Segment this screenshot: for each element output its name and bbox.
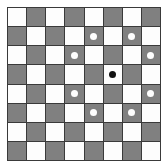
board-square-light-r8-c4[interactable] <box>65 142 83 160</box>
board-square-dark-r7-c8[interactable] <box>142 123 160 141</box>
board-square-light-r7-c5[interactable] <box>85 123 103 141</box>
board-square-light-r1-c3[interactable] <box>46 8 64 26</box>
board-square-light-r1-c1[interactable] <box>8 8 26 26</box>
board-square-dark-r5-c8[interactable] <box>142 85 160 103</box>
board-square-light-r6-c6[interactable] <box>104 104 122 122</box>
board-square-light-r3-c1[interactable] <box>8 46 26 64</box>
board-square-dark-r2-c7[interactable] <box>123 27 141 45</box>
board-square-dark-r4-c1[interactable] <box>8 65 26 83</box>
board-square-dark-r3-c8[interactable] <box>142 46 160 64</box>
board-square-dark-r5-c4[interactable] <box>65 85 83 103</box>
board-square-dark-r6-c1[interactable] <box>8 104 26 122</box>
board-square-dark-r7-c6[interactable] <box>104 123 122 141</box>
board-square-dark-r4-c5[interactable] <box>85 65 103 83</box>
white-dot-icon <box>147 90 154 97</box>
white-dot-icon <box>147 52 154 59</box>
board-square-light-r6-c8[interactable] <box>142 104 160 122</box>
board-square-dark-r4-c3[interactable] <box>46 65 64 83</box>
board-square-light-r3-c5[interactable] <box>85 46 103 64</box>
board-square-light-r1-c7[interactable] <box>123 8 141 26</box>
white-dot-icon <box>71 90 78 97</box>
board-square-light-r5-c7[interactable] <box>123 85 141 103</box>
board-square-dark-r8-c3[interactable] <box>46 142 64 160</box>
board-square-dark-r6-c5[interactable] <box>85 104 103 122</box>
board-square-light-r4-c6[interactable] <box>104 65 122 83</box>
board-square-dark-r2-c5[interactable] <box>85 27 103 45</box>
board-square-dark-r3-c4[interactable] <box>65 46 83 64</box>
board-square-dark-r6-c7[interactable] <box>123 104 141 122</box>
board-square-dark-r8-c5[interactable] <box>85 142 103 160</box>
white-dot-icon <box>90 33 97 40</box>
board-square-light-r2-c4[interactable] <box>65 27 83 45</box>
board-square-dark-r2-c3[interactable] <box>46 27 64 45</box>
white-dot-icon <box>128 109 135 116</box>
board-square-dark-r6-c3[interactable] <box>46 104 64 122</box>
board-square-dark-r8-c1[interactable] <box>8 142 26 160</box>
board-square-light-r5-c1[interactable] <box>8 85 26 103</box>
board-square-light-r1-c5[interactable] <box>85 8 103 26</box>
board-square-light-r2-c6[interactable] <box>104 27 122 45</box>
white-dot-icon <box>90 109 97 116</box>
board-square-dark-r8-c7[interactable] <box>123 142 141 160</box>
board-square-light-r5-c5[interactable] <box>85 85 103 103</box>
board-square-dark-r5-c2[interactable] <box>27 85 45 103</box>
black-dot-icon <box>109 71 116 78</box>
board-square-dark-r3-c6[interactable] <box>104 46 122 64</box>
board-square-light-r6-c2[interactable] <box>27 104 45 122</box>
white-dot-icon <box>71 52 78 59</box>
checkerboard-container <box>7 7 161 161</box>
board-square-light-r2-c2[interactable] <box>27 27 45 45</box>
board-square-light-r8-c6[interactable] <box>104 142 122 160</box>
white-dot-icon <box>128 33 135 40</box>
board-square-dark-r1-c4[interactable] <box>65 8 83 26</box>
board-square-light-r5-c3[interactable] <box>46 85 64 103</box>
board-square-light-r4-c4[interactable] <box>65 65 83 83</box>
board-square-dark-r4-c7[interactable] <box>123 65 141 83</box>
board-square-dark-r1-c8[interactable] <box>142 8 160 26</box>
board-square-dark-r5-c6[interactable] <box>104 85 122 103</box>
board-square-light-r2-c8[interactable] <box>142 27 160 45</box>
board-square-dark-r2-c1[interactable] <box>8 27 26 45</box>
board-square-light-r7-c3[interactable] <box>46 123 64 141</box>
board-square-light-r6-c4[interactable] <box>65 104 83 122</box>
board-square-light-r7-c1[interactable] <box>8 123 26 141</box>
board-square-dark-r1-c2[interactable] <box>27 8 45 26</box>
board-square-light-r3-c3[interactable] <box>46 46 64 64</box>
board-square-light-r8-c8[interactable] <box>142 142 160 160</box>
board-square-dark-r3-c2[interactable] <box>27 46 45 64</box>
board-square-dark-r1-c6[interactable] <box>104 8 122 26</box>
board-square-light-r7-c7[interactable] <box>123 123 141 141</box>
checkerboard-grid <box>7 7 161 161</box>
board-square-light-r8-c2[interactable] <box>27 142 45 160</box>
board-square-dark-r7-c4[interactable] <box>65 123 83 141</box>
board-square-light-r3-c7[interactable] <box>123 46 141 64</box>
board-square-light-r4-c2[interactable] <box>27 65 45 83</box>
board-square-dark-r7-c2[interactable] <box>27 123 45 141</box>
board-square-light-r4-c8[interactable] <box>142 65 160 83</box>
